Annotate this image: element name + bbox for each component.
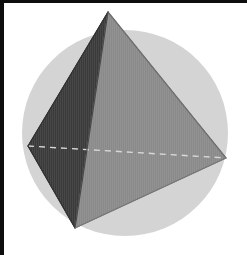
tetrahedron-figure: Tetrahedron inscribed in circle xyxy=(0,0,247,255)
figure-canvas: Tetrahedron inscribed in circle xyxy=(0,0,247,255)
